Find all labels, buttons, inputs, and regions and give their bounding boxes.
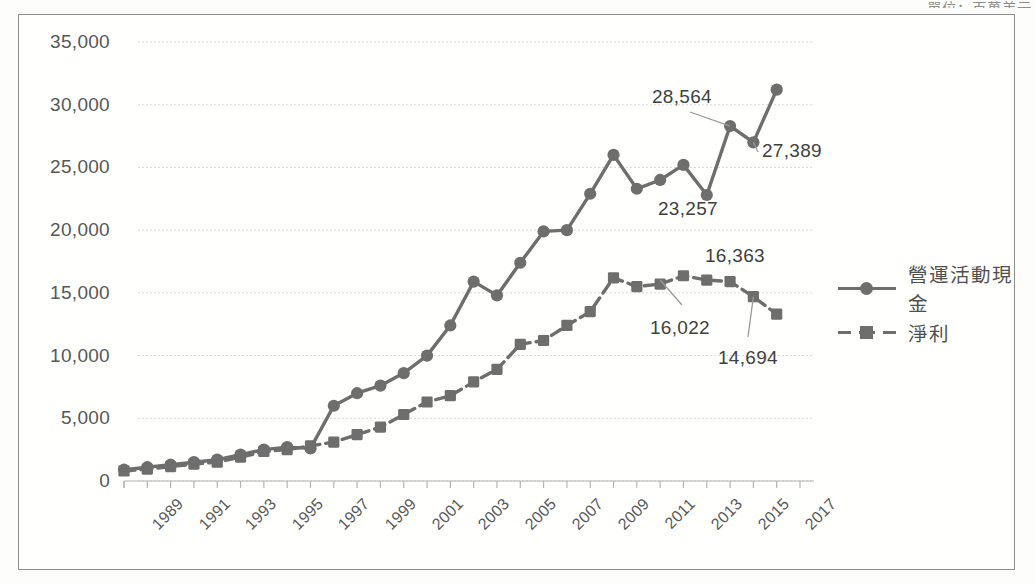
chart-legend: 營運活動現金 淨利 [838, 266, 1028, 354]
x-axis-tick-label: 1999 [382, 495, 420, 533]
legend-label-net-profit: 淨利 [896, 318, 950, 347]
x-axis-tick-label: 1989 [149, 495, 187, 533]
x-axis-tick-label: 2015 [755, 495, 793, 533]
x-axis-tick-label: 2011 [661, 495, 699, 533]
data-point-annotation: 23,257 [658, 198, 718, 220]
x-axis-tick-label: 2013 [708, 495, 746, 533]
x-axis-tick-label: 2003 [475, 495, 513, 533]
x-axis-tick-label: 2017 [801, 495, 839, 533]
data-point-annotation: 27,389 [762, 140, 822, 162]
x-axis-tick-label: 1991 [195, 495, 233, 533]
x-axis-tick-label: 1997 [335, 495, 373, 533]
data-point-annotation: 14,694 [718, 347, 778, 369]
legend-marker-square-icon [838, 322, 896, 342]
data-point-annotation: 16,363 [705, 245, 765, 267]
legend-marker-circle-icon [838, 278, 896, 298]
x-axis-tick-label: 1995 [289, 495, 327, 533]
data-point-annotation: 16,022 [650, 317, 710, 339]
x-axis-tick-label: 2009 [615, 495, 653, 533]
x-axis-tick-label: 2001 [428, 495, 466, 533]
x-axis-tick-label: 2005 [522, 495, 560, 533]
legend-item-operating-cash[interactable]: 營運活動現金 [838, 266, 1028, 310]
legend-label-operating-cash: 營運活動現金 [896, 259, 1028, 317]
x-axis-tick-label: 2007 [568, 495, 606, 533]
data-point-annotation: 28,564 [652, 86, 712, 108]
x-axis-tick-label: 1993 [242, 495, 280, 533]
